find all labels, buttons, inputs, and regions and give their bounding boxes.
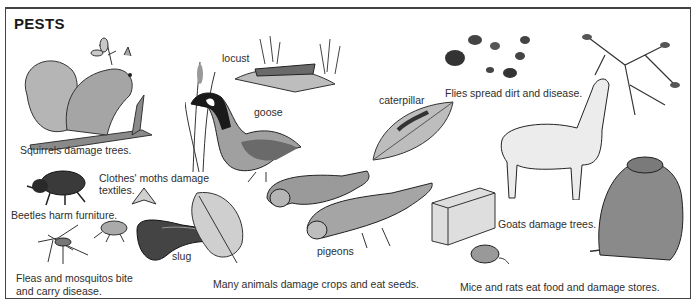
caption-mice: Mice and rats eat food and damage stores… <box>460 281 660 294</box>
beetle-illustration <box>25 168 90 208</box>
flea-illustration <box>92 218 132 243</box>
caption-fleas-line2: and carry disease. <box>16 285 102 298</box>
label-pigeons: pigeons <box>317 245 354 258</box>
caption-fleas-line1: Fleas and mosquitos bite <box>16 272 133 285</box>
pigeons-illustration <box>262 168 442 253</box>
label-slug: slug <box>172 250 191 263</box>
goose-illustration <box>186 82 306 182</box>
mouse-illustration <box>465 240 510 265</box>
squirrel-illustration <box>12 35 152 150</box>
label-locust: locust <box>222 52 249 65</box>
page-title: PESTS <box>14 15 65 32</box>
caption-goats: Goats damage trees. <box>498 218 596 231</box>
mosquito-illustration <box>28 220 98 265</box>
caterpillar-leaf-illustration <box>368 100 458 165</box>
leaf-illustration <box>187 188 247 268</box>
label-goose: goose <box>254 106 283 119</box>
moth-illustration <box>130 186 158 208</box>
rats-illustration <box>590 150 690 265</box>
locust-illustration <box>235 34 350 94</box>
caption-squirrels: Squirrels damage trees. <box>20 144 131 157</box>
caption-crops: Many animals damage crops and eat seeds. <box>213 278 419 291</box>
